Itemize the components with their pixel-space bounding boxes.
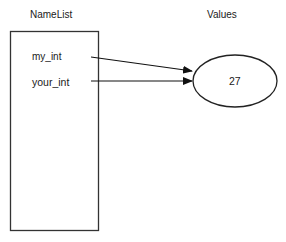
values-header: Values (207, 9, 237, 20)
namespace-diagram: NameList Values my_int your_int 27 (0, 0, 286, 242)
arrow-my-int-to-27 (91, 57, 192, 71)
name-your-int: your_int (32, 76, 69, 88)
name-my-int: my_int (32, 51, 62, 62)
namelist-header: NameList (30, 9, 72, 20)
value-27: 27 (229, 75, 241, 87)
